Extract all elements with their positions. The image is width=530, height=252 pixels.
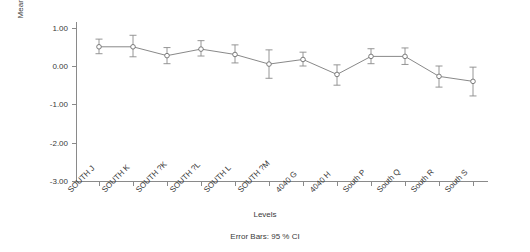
data-point-marker: [97, 45, 102, 50]
series-polyline: [99, 47, 473, 82]
chart-figure: Mean Logged density CountL 1.00 0.00 -1.…: [0, 0, 530, 252]
data-point-marker: [437, 74, 442, 79]
data-point-marker: [369, 54, 374, 59]
data-point-marker: [471, 79, 476, 84]
plot-area: [0, 0, 530, 252]
data-point-marker: [301, 57, 306, 62]
data-point-marker: [131, 45, 136, 50]
data-point-marker: [403, 54, 408, 59]
data-point-marker: [335, 72, 340, 77]
data-point-marker: [233, 52, 238, 57]
error-bars: [96, 35, 477, 96]
data-point-marker: [267, 62, 272, 67]
data-point-marker: [165, 53, 170, 58]
data-point-marker: [199, 47, 204, 52]
series-line: [99, 47, 473, 82]
